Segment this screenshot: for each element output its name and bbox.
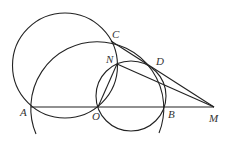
point-label-M: M [208, 112, 219, 124]
circle-through-A-C-O [13, 13, 118, 118]
circle-through-O-N-D-B [96, 61, 166, 131]
point-label-A: A [19, 106, 27, 118]
geometry-diagram: A O B M C N D [0, 0, 228, 152]
point-label-C: C [112, 28, 120, 40]
point-label-B: B [168, 108, 175, 120]
point-label-N: N [105, 53, 114, 65]
point-label-D: D [155, 55, 164, 67]
point-label-O: O [92, 110, 100, 122]
